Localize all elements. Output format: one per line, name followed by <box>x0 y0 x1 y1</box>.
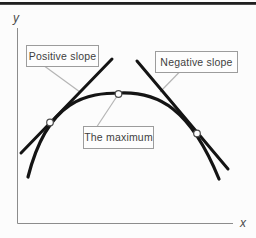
negative-tangent-line <box>137 61 228 169</box>
y-axis-label: y <box>12 11 20 25</box>
x-axis-label: x <box>239 216 247 230</box>
maximum-callout-label: The maximum <box>84 131 153 143</box>
left-tangent-point-marker <box>47 119 54 126</box>
slope-diagram: y x Positive slope Negative slope The ma… <box>0 0 256 238</box>
positive-slope-leader-line <box>45 67 80 93</box>
top-rule <box>0 2 256 5</box>
right-tangent-point-marker <box>194 130 201 137</box>
slope-diagram-canvas: y x Positive slope Negative slope The ma… <box>0 0 256 238</box>
positive-slope-callout-label: Positive slope <box>29 50 97 62</box>
maximum-leader-line <box>97 97 117 127</box>
negative-slope-leader-line <box>160 73 179 93</box>
maximum-point-marker <box>115 91 122 98</box>
negative-slope-callout-label: Negative slope <box>160 56 232 68</box>
